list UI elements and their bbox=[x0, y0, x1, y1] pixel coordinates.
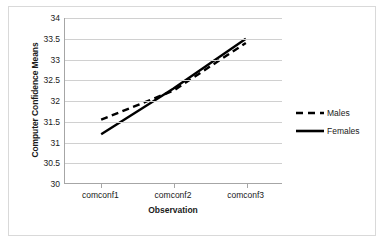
x-tick-mark bbox=[174, 184, 175, 188]
gridline bbox=[65, 122, 282, 123]
x-axis-title: Observation bbox=[64, 205, 282, 215]
x-tick-label: comconf2 bbox=[155, 190, 192, 200]
x-tick-mark bbox=[101, 184, 102, 188]
y-tick-label: 31.5 bbox=[43, 117, 60, 127]
legend-label-males: Males bbox=[327, 108, 350, 118]
legend-label-females: Females bbox=[327, 126, 360, 136]
solid-line-icon bbox=[295, 126, 325, 136]
gridline bbox=[65, 39, 282, 40]
x-axis-tick-labels: comconf1comconf2comconf3 bbox=[64, 190, 282, 204]
dashed-line-icon bbox=[295, 108, 325, 118]
gridline bbox=[65, 163, 282, 164]
x-tick-mark bbox=[247, 184, 248, 188]
chart-figure: Computer Confidence Means 3030.53131.532… bbox=[0, 0, 386, 245]
gridline bbox=[65, 101, 282, 102]
gridline bbox=[65, 143, 282, 144]
x-tick-label: comconf3 bbox=[227, 190, 264, 200]
y-tick-label: 30 bbox=[51, 179, 60, 189]
legend-item-males: Males bbox=[295, 104, 375, 122]
gridline bbox=[65, 60, 282, 61]
plot-area bbox=[64, 18, 282, 184]
chart-legend: Males Females bbox=[295, 104, 375, 140]
y-tick-label: 33 bbox=[51, 55, 60, 65]
y-tick-label: 30.5 bbox=[43, 158, 60, 168]
y-tick-label: 34 bbox=[51, 13, 60, 23]
y-axis-tick-labels: 3030.53131.53232.53333.534 bbox=[30, 18, 60, 184]
legend-item-females: Females bbox=[295, 122, 375, 140]
y-tick-label: 33.5 bbox=[43, 34, 60, 44]
series-line-females bbox=[101, 39, 246, 134]
gridline bbox=[65, 18, 282, 19]
y-tick-label: 32.5 bbox=[43, 75, 60, 85]
y-tick-label: 32 bbox=[51, 96, 60, 106]
y-tick-label: 31 bbox=[51, 138, 60, 148]
gridline bbox=[65, 80, 282, 81]
x-tick-label: comconf1 bbox=[82, 190, 119, 200]
